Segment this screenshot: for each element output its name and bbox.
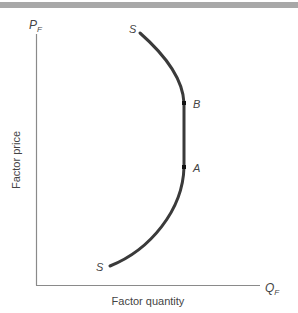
x-axis-title: Factor quantity <box>112 295 185 307</box>
curve-label-bottom: S <box>96 261 104 273</box>
point-a-marker <box>182 165 186 169</box>
point-a-label: A <box>192 162 200 174</box>
y-axis-symbol: PF <box>29 18 43 34</box>
curve-label-top: S <box>129 23 137 35</box>
point-b-label: B <box>193 98 200 110</box>
x-axis-symbol: QF <box>265 281 280 297</box>
point-b-marker <box>182 101 186 105</box>
supply-curve <box>110 33 184 266</box>
y-axis-title: Factor price <box>10 131 22 189</box>
supply-curve-diagram: PF QF Factor quantity Factor price S S B… <box>0 0 298 313</box>
